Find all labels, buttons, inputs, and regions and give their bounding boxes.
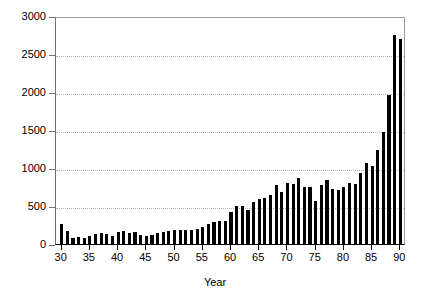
bar — [325, 180, 328, 244]
bar — [83, 238, 86, 244]
x-tick-mark — [230, 245, 231, 250]
bar — [308, 187, 311, 244]
bar — [94, 234, 97, 244]
bar — [218, 221, 221, 244]
bar — [331, 189, 334, 244]
bar — [387, 95, 390, 244]
y-tick-label: 500 — [0, 201, 46, 212]
y-tick-label: 2000 — [0, 87, 46, 98]
bar — [207, 224, 210, 244]
bar — [292, 184, 295, 244]
bar — [246, 210, 249, 244]
x-tick-mark — [89, 245, 90, 250]
x-tick-mark — [145, 245, 146, 250]
y-tick-mark — [49, 17, 55, 18]
bar — [263, 198, 266, 244]
bar — [286, 183, 289, 244]
x-tick-mark — [371, 245, 372, 250]
bar — [365, 163, 368, 244]
bar — [359, 173, 362, 244]
x-tick-label: 45 — [130, 252, 160, 263]
x-tick-label: 30 — [46, 252, 76, 263]
x-tick-mark — [61, 245, 62, 250]
x-tick-label: 35 — [74, 252, 104, 263]
bar — [320, 185, 323, 244]
bar-chart: 050010001500200025003000 303540455055606… — [0, 0, 430, 301]
x-tick-label: 50 — [159, 252, 189, 263]
bar — [150, 235, 153, 244]
bar — [258, 199, 261, 244]
bar — [235, 206, 238, 244]
x-tick-label: 90 — [384, 252, 414, 263]
bar-series — [56, 18, 404, 244]
bar — [297, 178, 300, 244]
bar — [122, 231, 125, 244]
x-tick-mark — [202, 245, 203, 250]
x-tick-label: 75 — [300, 252, 330, 263]
y-tick-mark — [49, 93, 55, 94]
bar — [139, 235, 142, 244]
x-tick-label: 55 — [187, 252, 217, 263]
y-tick-mark — [49, 131, 55, 132]
bar — [393, 35, 396, 244]
x-tick-mark — [258, 245, 259, 250]
x-tick-mark — [399, 245, 400, 250]
bar — [229, 212, 232, 244]
x-tick-mark — [286, 245, 287, 250]
bar — [280, 192, 283, 244]
bar — [60, 224, 63, 244]
bar — [173, 230, 176, 244]
y-tick-label: 1500 — [0, 125, 46, 136]
bar — [66, 231, 69, 244]
y-tick-label: 0 — [0, 239, 46, 250]
bar — [348, 183, 351, 244]
bar — [382, 132, 385, 244]
y-tick-mark — [49, 245, 55, 246]
bar — [399, 39, 402, 244]
y-tick-label: 2500 — [0, 49, 46, 60]
x-tick-label: 85 — [356, 252, 386, 263]
bar — [128, 233, 131, 244]
bar — [314, 201, 317, 244]
bar — [201, 227, 204, 244]
y-tick-label: 3000 — [0, 11, 46, 22]
bar — [111, 236, 114, 244]
y-tick-mark — [49, 55, 55, 56]
x-tick-mark — [343, 245, 344, 250]
bar — [184, 230, 187, 244]
bar — [212, 222, 215, 244]
x-tick-mark — [174, 245, 175, 250]
bar — [117, 232, 120, 244]
bar — [275, 185, 278, 244]
bar — [252, 202, 255, 244]
x-tick-label: 80 — [328, 252, 358, 263]
bar — [105, 234, 108, 244]
x-tick-label: 40 — [102, 252, 132, 263]
bar — [167, 231, 170, 244]
bar — [376, 150, 379, 244]
bar — [241, 206, 244, 244]
bar — [371, 166, 374, 244]
bar — [156, 233, 159, 244]
x-tick-mark — [315, 245, 316, 250]
y-tick-mark — [49, 207, 55, 208]
bar — [145, 236, 148, 244]
bar — [133, 232, 136, 244]
bar — [179, 230, 182, 244]
bar — [196, 229, 199, 244]
bar — [224, 221, 227, 244]
plot-area — [55, 17, 405, 245]
y-tick-mark — [49, 169, 55, 170]
x-tick-label: 60 — [215, 252, 245, 263]
x-tick-label: 65 — [243, 252, 273, 263]
bar — [88, 236, 91, 244]
x-axis-title: Year — [0, 276, 430, 288]
bar — [71, 238, 74, 244]
bar — [77, 237, 80, 244]
y-tick-label: 1000 — [0, 163, 46, 174]
bar — [190, 230, 193, 244]
bar — [337, 190, 340, 244]
bar — [100, 233, 103, 244]
x-tick-mark — [117, 245, 118, 250]
bar — [162, 232, 165, 244]
